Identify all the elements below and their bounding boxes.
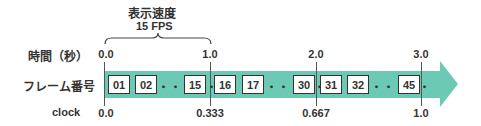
time-tick-3: 3.0 (413, 48, 428, 60)
frame-box: 32 (347, 75, 369, 94)
frame-box: 30 (293, 75, 315, 94)
clock-tick-0: 0.0 (98, 107, 113, 119)
time-tick-2: 2.0 (308, 48, 323, 60)
marker-line-0 (104, 62, 105, 106)
brace-icon (104, 32, 212, 46)
frame-row-label: フレーム番号 (23, 77, 95, 94)
clock-row-label: clock (52, 106, 80, 118)
display-speed-title: 表示速度 (128, 4, 176, 21)
time-row-label: 時間（秒） (28, 47, 88, 64)
clock-tick-3: 1.0 (413, 107, 428, 119)
frame-box: 31 (320, 75, 342, 94)
frame-box: 16 (214, 75, 236, 94)
frame-box: 01 (108, 75, 130, 94)
clock-tick-2: 0.667 (302, 107, 330, 119)
time-tick-0: 0.0 (98, 48, 113, 60)
time-tick-1: 1.0 (202, 48, 217, 60)
frame-box: 15 (184, 75, 206, 94)
frame-box: 02 (135, 75, 157, 94)
frame-box: 17 (242, 75, 264, 94)
timeline-arrowhead-icon (440, 61, 458, 107)
fps-label: 15 FPS (136, 20, 173, 32)
clock-tick-1: 0.333 (196, 107, 224, 119)
frame-box: 45 (398, 75, 420, 94)
